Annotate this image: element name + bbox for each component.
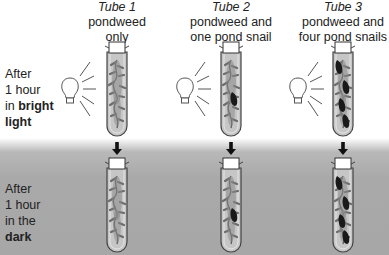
row-2-line4: dark — [5, 230, 31, 244]
row-1-line2: 1 hour — [5, 82, 54, 98]
test-tube-icon — [102, 40, 132, 140]
tube-1-desc-line1: pondweed — [57, 15, 177, 30]
test-tube-icon — [102, 156, 132, 255]
row-2-line3: in the — [5, 213, 40, 229]
light-bulb-icon — [175, 60, 215, 120]
tube-1-heading: Tube 1 pondweed only — [57, 0, 177, 45]
tube-3-desc-line1: pondweed and — [283, 15, 389, 30]
test-tube-icon — [216, 156, 246, 255]
row-1-prefix: in — [5, 99, 18, 113]
row-label-bright-light: After 1 hour in bright light — [5, 66, 54, 130]
tube-3-title: Tube 3 — [283, 0, 389, 15]
tube-3-heading: Tube 3 pondweed and four pond snails — [283, 0, 389, 45]
tube-2-title: Tube 2 — [171, 0, 291, 15]
test-tube-icon — [216, 40, 246, 140]
test-tube-icon — [328, 40, 358, 140]
light-bulb-icon — [60, 60, 100, 120]
test-tube-icon — [328, 156, 358, 255]
tube-2-desc-line1: pondweed and — [171, 15, 291, 30]
light-bulb-icon — [288, 60, 328, 120]
row-2-line1: After — [5, 181, 40, 197]
row-1-line4: light — [5, 115, 31, 129]
tube-1-title: Tube 1 — [57, 0, 177, 15]
row-label-dark: After 1 hour in the dark — [5, 181, 40, 245]
row-1-bold: bright — [18, 99, 53, 113]
row-1-line3: in bright — [5, 98, 54, 114]
row-1-line1: After — [5, 66, 54, 82]
tube-2-heading: Tube 2 pondweed and one pond snail — [171, 0, 291, 45]
row-2-line2: 1 hour — [5, 197, 40, 213]
